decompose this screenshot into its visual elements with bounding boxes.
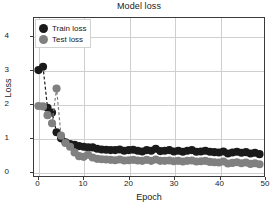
data-point-marker [57, 132, 65, 140]
y-tick-label: 1 [0, 133, 9, 142]
x-tick-label: 50 [250, 179, 278, 188]
train-loss-marker-icon [39, 24, 48, 33]
data-point-marker [39, 102, 47, 110]
data-point-marker [255, 150, 263, 158]
x-tick-label: 0 [23, 179, 53, 188]
x-axis-label: Epoch [33, 192, 265, 202]
x-tick-mark [129, 177, 130, 180]
x-tick-mark [174, 177, 175, 180]
data-point-marker [52, 85, 60, 93]
data-point-marker [48, 119, 56, 127]
x-tick-label: 20 [114, 179, 144, 188]
data-point-marker [39, 63, 47, 71]
y-tick-label: 0 [0, 167, 9, 176]
x-tick-label: 10 [68, 179, 98, 188]
x-tick-mark [220, 177, 221, 180]
legend-item-test: Test loss [39, 34, 86, 44]
x-tick-mark [83, 177, 84, 180]
legend-label-train: Train loss [52, 24, 86, 33]
legend-item-train: Train loss [39, 23, 86, 33]
x-tick-mark [265, 177, 266, 180]
chart-legend: Train loss Test loss [35, 19, 91, 48]
data-point-marker [43, 111, 51, 119]
y-tick-label: 2 [0, 99, 9, 108]
x-tick-mark [38, 177, 39, 180]
x-tick-label: 40 [205, 179, 235, 188]
legend-label-test: Test loss [52, 35, 83, 44]
chart-title: Model loss [0, 1, 278, 11]
data-point-marker [255, 160, 263, 168]
y-tick-label: 3 [0, 65, 9, 74]
y-tick-label: 4 [0, 31, 9, 40]
x-tick-label: 30 [159, 179, 189, 188]
chart-figure: Model loss Loss Epoch 01234 01020304050 … [0, 0, 278, 209]
test-loss-marker-icon [39, 35, 48, 44]
